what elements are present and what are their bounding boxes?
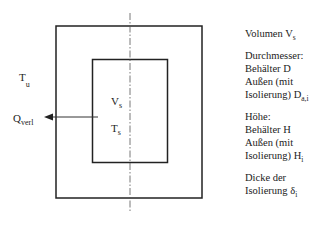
legend-panel: Volumen Vs Durchmesser: Behälter D Außen… [245,27,309,206]
legend-volume: Volumen Vs [245,27,309,40]
storage-volume-label: Vs [111,95,122,107]
heat-loss-label: Qverl [13,112,33,124]
legend-height: Höhe: Behälter H Außen (mit Isolierung) … [245,110,309,162]
legend-insulation: Dicke der Isolierung δi [245,171,309,197]
arrow-head-icon [44,114,53,121]
storage-temp-label: Ts [111,122,121,134]
legend-diameter: Durchmesser: Behälter D Außen (mit Isoli… [245,49,309,101]
legend-diameter-title: Durchmesser: [245,49,309,62]
legend-height-title: Höhe: [245,110,309,123]
outer-insulation-box [56,26,202,198]
ambient-temp-label: Tu [19,71,30,85]
